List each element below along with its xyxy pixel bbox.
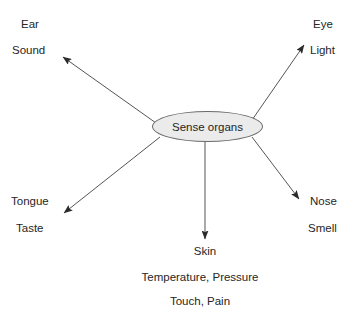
center-node-label: Sense organs [172, 121, 243, 133]
label-eye-stimulus: Light [310, 45, 335, 57]
label-ear-organ: Ear [21, 19, 39, 31]
arrow-to-tongue [64, 137, 160, 213]
connector-arrows [0, 0, 362, 314]
arrow-to-nose [252, 137, 299, 199]
arrow-to-eye [252, 45, 304, 120]
label-skin-stimulus-extra: Touch, Pain [170, 296, 230, 308]
label-tongue-stimulus: Taste [16, 223, 44, 235]
label-skin-stimulus: Temperature, Pressure [142, 272, 259, 284]
arrow-to-ear [63, 57, 156, 123]
center-node-sense-organs: Sense organs [152, 111, 263, 142]
label-nose-stimulus: Smell [308, 223, 337, 235]
label-eye-organ: Eye [313, 19, 333, 31]
sense-organs-diagram: Sense organs Ear Sound Eye Light Tongue … [0, 0, 362, 314]
label-nose-organ: Nose [310, 196, 337, 208]
label-tongue-organ: Tongue [11, 196, 49, 208]
label-skin-organ: Skin [194, 246, 216, 258]
label-ear-stimulus: Sound [12, 45, 45, 57]
